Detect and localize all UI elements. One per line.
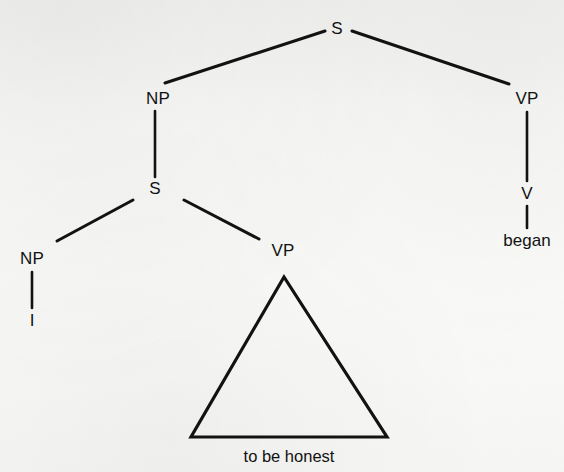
tree-node-s-root: S [331,20,343,37]
tree-terminal-terminal-began: began [503,232,550,249]
vp-constituent-triangle [191,277,387,437]
tree-edge-s-root-to-np-subject [165,31,325,83]
tree-node-vp-embedded: VP [271,242,294,259]
triangle-group [191,277,387,437]
edges-group [32,31,527,308]
tree-terminal-terminal-i: I [30,312,35,329]
syntax-tree-figure: SNPVPSVNPVPIbeganto be honest [0,0,564,472]
vp-triangle-caption: to be honest [244,448,335,465]
tree-edge-s-embedded-to-np-embedded [57,200,133,241]
tree-node-np-embedded: NP [20,250,44,267]
tree-edge-s-root-to-vp-main [352,31,509,84]
tree-node-v-main: V [521,185,533,202]
tree-node-vp-main: VP [515,90,538,107]
tree-edge-s-embedded-to-vp-embedded [184,200,259,239]
tree-node-np-subject: NP [146,90,170,107]
tree-edges-canvas [0,0,564,472]
tree-node-s-embedded: S [149,180,161,197]
